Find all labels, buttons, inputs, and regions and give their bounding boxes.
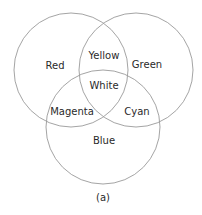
label-blue: Blue	[93, 135, 115, 146]
caption: (a)	[96, 192, 110, 203]
label-cyan: Cyan	[124, 106, 149, 117]
label-yellow: Yellow	[88, 50, 120, 61]
label-red: Red	[46, 60, 65, 71]
venn-diagram: Red Yellow Green White Magenta Cyan Blue…	[0, 0, 202, 215]
label-green: Green	[132, 59, 162, 70]
label-white: White	[89, 80, 118, 91]
label-magenta: Magenta	[50, 106, 94, 117]
